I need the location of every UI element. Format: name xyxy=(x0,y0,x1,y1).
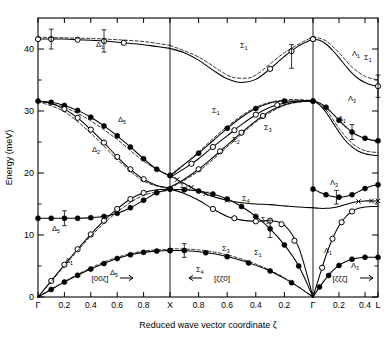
data-point-open xyxy=(141,190,146,195)
data-point-filled xyxy=(102,123,107,128)
svg-text:Σ4: Σ4 xyxy=(242,194,250,204)
x-tick-label: 0.4 xyxy=(359,300,371,310)
error-bar xyxy=(289,45,294,69)
data-point-filled xyxy=(141,156,146,161)
branch-label: Λ3 xyxy=(330,178,338,188)
branch-label: Σ4 xyxy=(180,181,188,191)
svg-text:Λ3: Λ3 xyxy=(330,178,338,188)
svg-text:Δ5: Δ5 xyxy=(110,268,118,278)
data-point-cross xyxy=(189,185,193,189)
branch-label: Σ3 xyxy=(264,123,272,133)
data-point-filled xyxy=(376,138,381,143)
data-point-open xyxy=(253,219,258,224)
dispersion-curve-Sigma-2-calc xyxy=(170,100,313,188)
data-point-open xyxy=(292,238,297,243)
y-axis-title: Energy (meV) xyxy=(4,130,14,186)
svg-text:Λ3: Λ3 xyxy=(351,261,359,271)
data-point-filled xyxy=(324,192,329,197)
data-point-open xyxy=(320,265,325,270)
branch-label: Δ5 xyxy=(118,115,126,125)
y-tick-label: 20 xyxy=(24,168,34,178)
data-point-filled xyxy=(196,188,201,193)
data-point-filled xyxy=(239,204,244,209)
svg-text:Σ1: Σ1 xyxy=(364,53,372,63)
data-point-open xyxy=(189,161,194,166)
x-tick-label: 0.8 xyxy=(193,300,205,310)
data-point-filled xyxy=(324,105,329,110)
data-point-filled xyxy=(317,285,322,290)
x-tick-label: 0.2 xyxy=(58,300,70,310)
svg-text:[00ζ]: [00ζ] xyxy=(92,274,109,283)
data-point-open xyxy=(75,115,80,120)
data-point-filled xyxy=(311,187,316,192)
dispersion-curve-Delta-5-TO-calc xyxy=(38,101,170,177)
svg-text:Σ4: Σ4 xyxy=(180,181,188,191)
data-point-filled xyxy=(88,215,93,220)
svg-text:Δ5: Δ5 xyxy=(52,224,60,234)
branch-label: Λ3 xyxy=(348,94,356,104)
data-point-filled xyxy=(282,242,287,247)
data-point-open xyxy=(253,112,258,117)
branch-label: Λ1 xyxy=(324,246,332,256)
branch-label: Λ1 xyxy=(352,49,360,59)
data-point-filled xyxy=(296,264,301,269)
data-point-filled xyxy=(376,182,381,187)
svg-text:Σ1: Σ1 xyxy=(212,106,220,116)
data-point-cross xyxy=(175,177,179,181)
x-tick-label: 0.6 xyxy=(111,300,123,310)
data-point-filled xyxy=(128,205,133,210)
data-point-open xyxy=(330,236,335,241)
phonon-dispersion-figure: 010203040Γ0.20.40.60.8X0.80.60.40.2Γ0.20… xyxy=(0,0,390,339)
y-tick-label: 10 xyxy=(24,230,34,240)
dispersion-curve-Sigma-2 xyxy=(170,101,313,187)
branch-label: Δ5 xyxy=(52,224,60,234)
data-point-open xyxy=(121,40,126,45)
branch-label: Σ3 xyxy=(222,244,230,254)
svg-text:Λ1: Λ1 xyxy=(352,49,360,59)
branch-label: Σ1 xyxy=(364,53,372,63)
svg-text:Δ5: Δ5 xyxy=(118,115,126,125)
dispersion-curve-Delta-5-TO xyxy=(38,101,170,175)
data-point-filled xyxy=(210,192,215,197)
branch-label: Σ4 xyxy=(242,194,250,204)
branch-label: Δ5 xyxy=(110,268,118,278)
svg-text:[ζζζ]: [ζζζ] xyxy=(332,274,347,283)
x-tick-label: 0.4 xyxy=(250,300,262,310)
dispersion-curve-Sigma-1-ta xyxy=(170,250,313,297)
data-point-filled xyxy=(154,249,159,254)
x-tick-label: X xyxy=(167,300,173,310)
svg-text:Σ4: Σ4 xyxy=(196,265,204,275)
plot-frame xyxy=(38,18,378,297)
data-point-filled xyxy=(350,192,355,197)
svg-text:Σ1: Σ1 xyxy=(254,248,262,258)
data-point-filled xyxy=(49,216,54,221)
data-point-filled xyxy=(115,256,120,261)
branch-label: Σ1 xyxy=(254,248,262,258)
dispersion-curve-Lambda-1-lo xyxy=(313,101,378,156)
data-point-filled xyxy=(75,216,80,221)
x-tick-label: L xyxy=(375,300,380,310)
x-tick-label: 0.2 xyxy=(278,300,290,310)
svg-text:Λ3: Λ3 xyxy=(348,94,356,104)
svg-text:Σ3: Σ3 xyxy=(222,244,230,254)
data-point-open xyxy=(268,66,273,71)
data-point-filled xyxy=(363,255,368,260)
dispersion-curve-Sigma-4-low-calc xyxy=(170,249,313,297)
data-point-open xyxy=(232,128,237,133)
data-point-open xyxy=(349,209,354,214)
x-tick-label: 0.2 xyxy=(333,300,345,310)
dispersion-plot-svg: 010203040Γ0.20.40.60.8X0.80.60.40.2Γ0.20… xyxy=(0,0,390,339)
branch-label: Λ3 xyxy=(351,261,359,271)
svg-text:Σ3: Σ3 xyxy=(264,123,272,133)
x-axis-title: Reduced wave vector coordinate ζ xyxy=(139,320,277,330)
branch-label: Σ4 xyxy=(196,265,204,275)
data-point-filled xyxy=(376,255,381,260)
data-point-filled xyxy=(141,250,146,255)
y-tick-label: 40 xyxy=(24,44,34,54)
data-point-filled xyxy=(253,214,258,219)
x-tick-label: 0.4 xyxy=(85,300,97,310)
dispersion-curve-Lambda-3-mid xyxy=(313,185,378,197)
y-tick-label: 0 xyxy=(29,292,34,302)
branch-label: Σ3 xyxy=(261,215,269,225)
svg-text:[ζζ0]: [ζζ0] xyxy=(214,274,230,283)
